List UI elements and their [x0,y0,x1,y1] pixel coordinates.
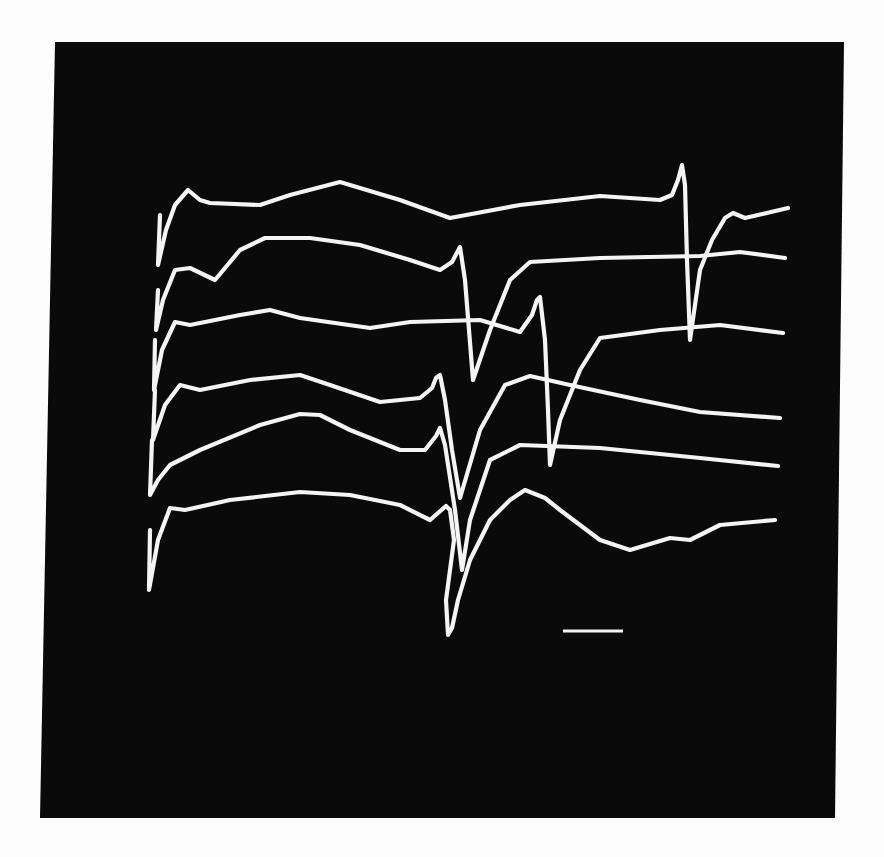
figure [0,0,884,857]
